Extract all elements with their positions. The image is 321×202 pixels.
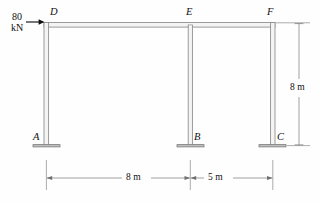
supports bbox=[33, 145, 286, 147]
load-arrow-80kN bbox=[26, 19, 45, 24]
load-magnitude-value: 80 bbox=[12, 11, 22, 22]
support-base-plate-C bbox=[259, 145, 286, 147]
frame-geometry-svg bbox=[0, 0, 321, 202]
column-member-CF bbox=[271, 23, 275, 146]
dimension-label-right-bay: 5 m bbox=[208, 173, 223, 183]
beam-member-DF bbox=[44, 23, 275, 28]
joint-label-E: E bbox=[186, 7, 192, 18]
load-unit-value: kN bbox=[11, 22, 23, 33]
load-magnitude-label: 80 kN bbox=[6, 12, 28, 34]
joint-label-B: B bbox=[194, 132, 200, 143]
frame-diagram-canvas: 80 kN D E F A B C 8 m 8 m 5 m bbox=[0, 0, 321, 202]
joint-label-C: C bbox=[277, 132, 284, 143]
joint-label-D: D bbox=[50, 7, 58, 18]
dimension-label-height: 8 m bbox=[290, 83, 305, 93]
dimension-label-left-bay: 8 m bbox=[126, 173, 141, 183]
column-member-AD bbox=[44, 23, 49, 146]
joint-label-F: F bbox=[267, 7, 273, 18]
dimension-spans bbox=[46, 160, 272, 190]
column-member-BE bbox=[188, 25, 192, 146]
joint-label-A: A bbox=[33, 132, 39, 143]
support-base-plate-B bbox=[177, 145, 204, 147]
support-base-plate-A bbox=[33, 145, 60, 147]
frame-members bbox=[44, 23, 275, 146]
